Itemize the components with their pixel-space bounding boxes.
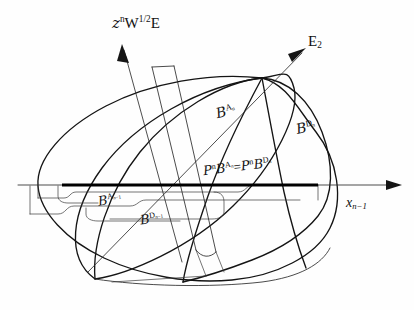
axis-label-x: xn−1 [346, 196, 367, 210]
b-dnm1-sup: Dn−1 [149, 209, 164, 220]
diagram-svg [0, 0, 414, 310]
outer-body-lower-sweep [95, 248, 330, 286]
tilted-body-a-outline [95, 74, 295, 279]
axis-e2-e: E [308, 33, 317, 49]
band-lower-box-right [216, 252, 224, 272]
axis-x-arrowhead [386, 180, 402, 190]
axis-e2-sub: 2 [317, 40, 322, 50]
sliver-strip-upper [38, 185, 318, 198]
axis-z-sup2: 1/2 [139, 14, 151, 24]
outer-body-outline [38, 76, 338, 281]
vertical-band-bottom-cap [196, 250, 216, 256]
sliver-substrip-a [58, 186, 98, 203]
axis-x-sub: n−1 [352, 201, 367, 211]
sliver-substrip-c [110, 192, 224, 219]
figure-canvas: znW1/2E E2 xn−1 BAn BDn PnBAn=PnBDn BAn−… [0, 0, 414, 310]
axis-e2-arrowhead [288, 48, 306, 62]
vertical-band-line-right [174, 66, 216, 252]
axis-label-e2: E2 [308, 34, 322, 49]
axis-z-e: E [151, 15, 160, 31]
inner-lens-arc-right [262, 78, 306, 268]
b-anm1-sup: An−1 [106, 190, 121, 201]
proj-b2-sup-sub: n [269, 159, 272, 164]
axis-z-arrowhead [117, 44, 129, 63]
b-dnm1-sup-sub: n−1 [155, 214, 163, 220]
band-lower-box-base [112, 276, 206, 282]
axis-z-z: z [112, 14, 120, 32]
vertical-band-top-cap [152, 66, 174, 67]
b-anm1-sup-sub: n−1 [113, 194, 121, 200]
band-lower-box-left [196, 250, 206, 276]
axis-z-w: W [125, 15, 139, 31]
proj-b2-sup: Dn [262, 155, 271, 165]
sliver-strip-lower [30, 200, 300, 214]
b-dn-sup: Dn [304, 117, 315, 129]
axis-label-z: znW1/2E [112, 16, 160, 31]
